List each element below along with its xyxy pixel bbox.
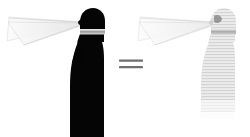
neck-band-line xyxy=(211,31,236,32)
bottom-fade-overlay-strong xyxy=(198,112,240,137)
equals-bar-top xyxy=(119,60,143,62)
figure-canvas: = xyxy=(0,0,250,137)
equals-bar-bottom xyxy=(119,66,143,68)
neck-band-line xyxy=(80,31,105,32)
shoulder-shape xyxy=(209,34,236,42)
shoulder-shape xyxy=(78,34,105,42)
figure-svg: = xyxy=(0,0,250,137)
